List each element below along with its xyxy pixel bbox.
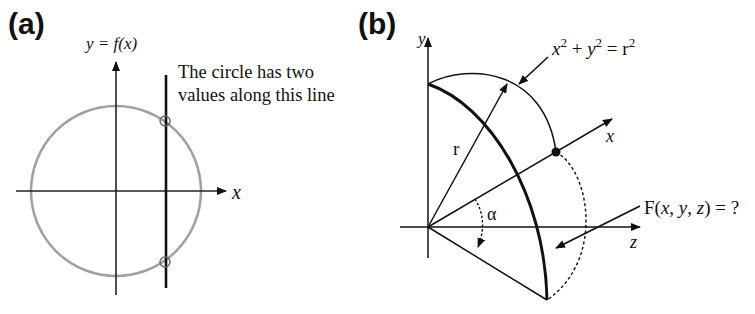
panel-a-label: (a) — [8, 7, 45, 40]
angle-alpha-label: α — [487, 204, 497, 224]
panel-b: (b) y z x r α x2 + y2 = r2 — [358, 7, 739, 300]
x-axis-label: x — [231, 181, 241, 203]
radius-label: r — [453, 138, 460, 159]
figure: (a) x y = f(x) The circle has two values… — [0, 0, 755, 314]
x-axis — [428, 119, 612, 227]
panel-b-label: (b) — [358, 7, 396, 40]
x-axis-label: x — [605, 126, 614, 146]
circle-equation: x2 + y2 = r2 — [551, 35, 635, 59]
z-axis-label: z — [629, 232, 637, 252]
equation-pointer-arrow — [519, 57, 548, 84]
figure-canvas: (a) x y = f(x) The circle has two values… — [0, 0, 755, 314]
angle-alpha-arc — [475, 199, 483, 247]
function-label: F(x, y, z) = ? — [644, 197, 739, 219]
panel-a: (a) x y = f(x) The circle has two values… — [8, 7, 335, 295]
annotation-line2: values along this line — [178, 85, 335, 105]
xy-circle-arc — [428, 73, 556, 152]
lower-radius-line — [428, 227, 547, 300]
dashed-arc — [547, 152, 586, 300]
y-axis-label: y — [416, 29, 426, 48]
y-axis-label: y = f(x) — [84, 34, 137, 53]
annotation-line1: The circle has two — [178, 62, 314, 82]
